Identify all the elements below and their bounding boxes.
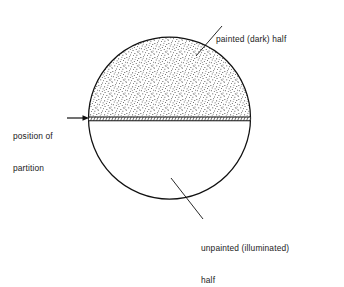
partition-band: [89, 117, 251, 121]
label-unpainted-line-1: unpainted (illuminated): [201, 243, 289, 254]
unpainted-illuminated-half-region: [89, 118, 251, 199]
label-position-of-partition: position of partition: [13, 110, 53, 195]
label-position-line-2: partition: [13, 163, 53, 174]
label-unpainted-illuminated-half: unpainted (illuminated) half: [201, 222, 289, 287]
label-unpainted-line-2: half: [201, 275, 289, 286]
label-position-line-1: position of: [13, 131, 53, 142]
label-painted-line-1: painted (dark) half: [216, 34, 286, 45]
partition-arrow-icon: [67, 115, 89, 121]
label-painted-dark-half: painted (dark) half: [216, 13, 286, 66]
